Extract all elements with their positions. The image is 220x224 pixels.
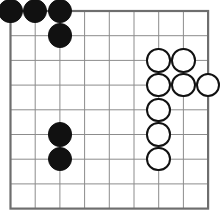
white-stone-g7[interactable] (146, 48, 171, 73)
black-stone-c9[interactable] (48, 0, 73, 23)
white-stone-g5[interactable] (146, 98, 171, 123)
black-stone-a9[interactable] (0, 0, 23, 23)
white-stone-g6[interactable] (146, 73, 171, 98)
go-board[interactable] (0, 0, 220, 224)
black-stone-b9[interactable] (23, 0, 48, 23)
white-stone-g4[interactable] (146, 122, 171, 147)
black-stone-c8[interactable] (48, 23, 73, 48)
white-stone-j6[interactable] (196, 73, 220, 98)
black-stone-c4[interactable] (48, 122, 73, 147)
white-stone-h6[interactable] (171, 73, 196, 98)
stone-layer[interactable] (0, 0, 220, 224)
black-stone-c3[interactable] (48, 147, 73, 172)
white-stone-g3[interactable] (146, 147, 171, 172)
white-stone-h7[interactable] (171, 48, 196, 73)
